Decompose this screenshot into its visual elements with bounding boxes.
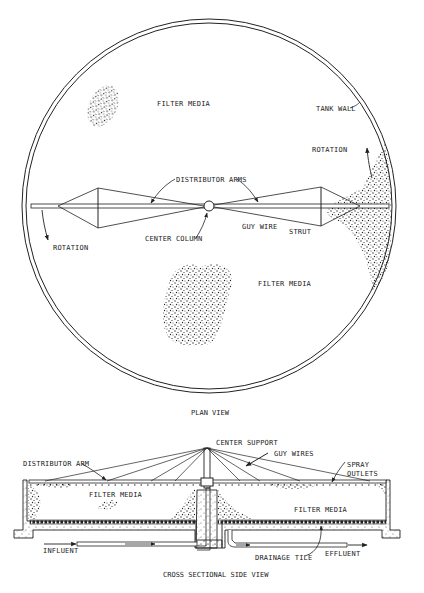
filter-media-right-center <box>218 490 255 520</box>
underdrain-left <box>30 520 195 524</box>
left-guy-wire-lower <box>58 206 204 228</box>
center-pedestal <box>196 490 217 548</box>
center-column <box>204 201 214 211</box>
filter-media-patch-right <box>326 143 392 290</box>
tank-structure-right <box>222 480 400 548</box>
left-guy-wire-upper <box>58 188 204 206</box>
filter-media-right-edge <box>376 484 386 502</box>
label-rotation-right: ROTATION <box>312 146 347 154</box>
label-tank-wall: TANK WALL <box>316 105 356 113</box>
label-filter-media-bottom: FILTER MEDIA <box>258 280 312 288</box>
underdrain-right <box>218 520 386 524</box>
label-filter-media-right: FILTER MEDIA <box>294 506 348 514</box>
drainage-tile-leader <box>305 526 321 556</box>
filter-media-right-top <box>268 484 320 489</box>
spray-outlets-leader <box>332 462 345 482</box>
filter-media-left-blob <box>98 500 118 510</box>
filter-media-patch-top-left <box>81 80 125 132</box>
plan-view-title: PLAN VIEW <box>191 409 230 417</box>
label-distributor-arm: DISTRIBUTOR ARM <box>23 460 89 468</box>
label-distributor-arms: DISTRIBUTOR ARMS <box>176 176 247 184</box>
label-guy-wires: GUY WIRES <box>274 450 314 458</box>
filter-media-left-center <box>170 488 195 520</box>
plan-view: FILTER MEDIA TANK WALL ROTATION DISTRIBU… <box>22 19 396 417</box>
label-rotation-left: ROTATION <box>53 244 88 252</box>
label-strut: STRUT <box>289 228 312 236</box>
label-outlets: OUTLETS <box>347 470 378 478</box>
trickling-filter-diagram: FILTER MEDIA TANK WALL ROTATION DISTRIBU… <box>0 0 424 593</box>
label-drainage-tile: DRAINAGE TILE <box>255 554 312 562</box>
label-center-support: CENTER SUPPORT <box>216 439 278 447</box>
side-view: CENTER SUPPORT DISTRIBUTOR ARM GUY WIRES… <box>14 439 400 579</box>
center-support-hub <box>201 478 213 486</box>
rotation-arrow-right <box>367 148 372 178</box>
filter-media-patch-bottom <box>163 264 232 346</box>
label-filter-media-left: FILTER MEDIA <box>89 491 143 499</box>
label-influent: INFLUENT <box>43 547 79 555</box>
side-view-title: CROSS SECTIONAL SIDE VIEW <box>163 571 269 579</box>
effluent-pipe <box>228 530 347 547</box>
rotation-arrow-left <box>42 210 48 240</box>
filter-media-left-edge <box>28 485 40 520</box>
label-center-column: CENTER COLUMN <box>145 235 202 243</box>
label-filter-media-top: FILTER MEDIA <box>157 100 211 108</box>
label-spray: SPRAY <box>347 461 370 469</box>
label-effluent: EFFLUENT <box>325 550 361 558</box>
label-guy-wire: GUY WIRE <box>242 223 277 231</box>
